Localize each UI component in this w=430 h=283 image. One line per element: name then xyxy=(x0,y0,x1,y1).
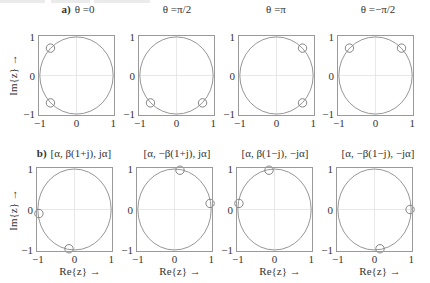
x-tick-label: 0 xyxy=(172,254,178,265)
plot-a1: 10−1−101 xyxy=(38,35,115,116)
plot-canvas xyxy=(337,35,414,116)
x-tick-label: −1 xyxy=(132,254,144,265)
panel-title-a1: a)θ =0 xyxy=(62,3,95,15)
x-tick-label: 1 xyxy=(308,254,314,265)
x-tick-label: 0 xyxy=(174,118,180,129)
y-tick-label: 1 xyxy=(30,31,39,42)
x-axis-label-b4: Re{z} → xyxy=(359,265,400,277)
x-tick-label: 1 xyxy=(409,118,415,129)
x-tick-label: −1 xyxy=(332,254,344,265)
x-tick-label: −1 xyxy=(333,118,345,129)
y-tick-label: 0 xyxy=(230,70,239,81)
plot-b4: 10−1−101 xyxy=(336,167,413,252)
y-tick-label: 0 xyxy=(328,204,337,215)
y-tick-label: 1 xyxy=(230,31,239,42)
x-axis-label-b2: Re{z} → xyxy=(159,265,200,277)
y-tick-label: 0 xyxy=(30,70,39,81)
x-tick-label: 0 xyxy=(372,254,378,265)
panel-title-a3: θ =π xyxy=(266,3,286,15)
plot-b2: 10−1−101 xyxy=(136,167,213,252)
y-tick-label: 1 xyxy=(328,164,337,175)
y-tick-label: 1 xyxy=(329,31,338,42)
row-label-a: a) xyxy=(62,3,71,15)
y-tick-label: 1 xyxy=(128,164,137,175)
x-tick-label: 0 xyxy=(272,254,278,265)
y-tick-label: 0 xyxy=(329,70,338,81)
title-text: θ =0 xyxy=(75,3,95,15)
y-tick-label: 1 xyxy=(130,31,139,42)
y-tick-label: 1 xyxy=(28,164,37,175)
plot-a4: 10−1−101 xyxy=(337,35,414,116)
x-tick-label: −1 xyxy=(134,118,146,129)
plot-canvas xyxy=(336,167,413,252)
panel-title-a4: θ =−π/2 xyxy=(361,3,396,15)
x-tick-label: −1 xyxy=(32,254,44,265)
plot-canvas xyxy=(38,35,115,116)
x-tick-label: 0 xyxy=(373,118,379,129)
plot-b1: 10−1−101 xyxy=(36,167,113,252)
y-axis-label-row-a: Im{z} → xyxy=(7,54,19,95)
y-tick-label: 0 xyxy=(228,204,237,215)
plot-canvas xyxy=(238,35,315,116)
x-tick-label: 0 xyxy=(72,254,78,265)
row-label-b: b) xyxy=(37,147,47,159)
x-tick-label: 1 xyxy=(108,254,114,265)
x-axis-label-b1: Re{z} → xyxy=(59,265,100,277)
x-tick-label: 1 xyxy=(110,118,116,129)
y-tick-label: 0 xyxy=(28,204,37,215)
plot-a3: 10−1−101 xyxy=(238,35,315,116)
plot-b3: 10−1−101 xyxy=(236,167,313,252)
x-axis-label-b3: Re{z} → xyxy=(259,265,300,277)
y-tick-label: 1 xyxy=(228,164,237,175)
panel-title-b2: [α, −β(1+j), jα] xyxy=(144,147,211,159)
x-tick-label: 1 xyxy=(408,254,414,265)
x-tick-label: 1 xyxy=(208,254,214,265)
title-text: [α, β(1+j), jα] xyxy=(51,147,112,159)
x-tick-label: 1 xyxy=(210,118,216,129)
x-tick-label: 0 xyxy=(274,118,280,129)
plot-canvas xyxy=(36,167,113,252)
plot-canvas xyxy=(136,167,213,252)
plot-canvas xyxy=(236,167,313,252)
x-tick-label: −1 xyxy=(34,118,46,129)
panel-title-b4: [α, −β(1−j), −jα] xyxy=(342,147,415,159)
y-tick-label: 0 xyxy=(128,204,137,215)
x-tick-label: −1 xyxy=(234,118,246,129)
y-tick-label: 0 xyxy=(130,70,139,81)
x-tick-label: 1 xyxy=(310,118,316,129)
panel-title-b3: [α, β(1−j), −jα] xyxy=(242,147,309,159)
plot-canvas xyxy=(138,35,215,116)
panel-title-b1: b)[α, β(1+j), jα] xyxy=(37,147,111,159)
x-tick-label: −1 xyxy=(232,254,244,265)
y-axis-label-row-b: Im{z} → xyxy=(7,189,19,230)
panel-title-a2: θ =π/2 xyxy=(163,3,191,15)
x-tick-label: 0 xyxy=(74,118,80,129)
plot-a2: 10−1−101 xyxy=(138,35,215,116)
